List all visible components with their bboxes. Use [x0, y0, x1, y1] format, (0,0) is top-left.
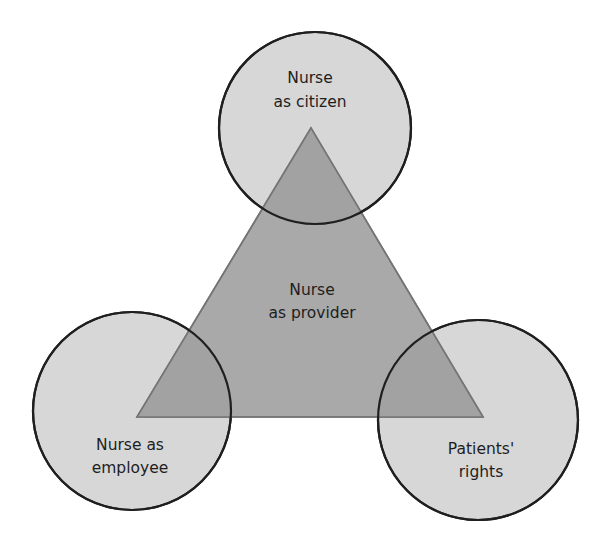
nursing-roles-diagram: Nurse as citizen Nurse as provider Nurse…	[0, 0, 613, 540]
label-citizen-line1: Nurse	[287, 69, 332, 87]
label-patients-rights-line2: rights	[459, 463, 504, 481]
label-citizen-line2: as citizen	[273, 93, 346, 111]
label-patients-rights-line1: Patients'	[448, 440, 514, 458]
label-provider-line1: Nurse	[289, 281, 334, 299]
label-provider-line2: as provider	[268, 304, 356, 322]
label-employee-line1: Nurse as	[96, 436, 164, 454]
label-employee-line2: employee	[92, 459, 169, 477]
